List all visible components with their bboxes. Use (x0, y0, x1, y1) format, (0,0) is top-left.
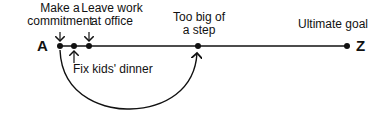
big-step-label: Too big of a step (166, 11, 232, 37)
point-a-dot (57, 43, 63, 49)
start-label: A (37, 38, 48, 53)
big-step-dot (195, 43, 201, 49)
point-z-dot (344, 43, 350, 49)
dinner-label: Fix kids' dinner (73, 63, 153, 76)
dinner-dot (71, 43, 77, 49)
leave-work-label: Leave work at office (80, 2, 144, 28)
leave-work-dot (86, 43, 92, 49)
goal-label: Ultimate goal (298, 18, 368, 31)
end-label: Z (356, 38, 365, 53)
big-step-arc (60, 50, 197, 109)
